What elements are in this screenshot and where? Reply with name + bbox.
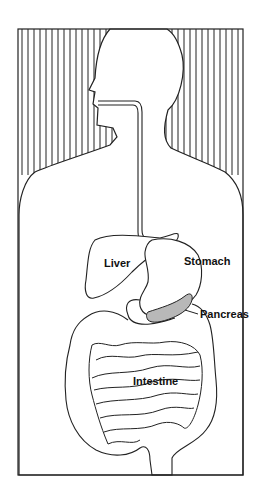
label-pancreas: Pancreas	[200, 308, 249, 320]
label-liver: Liver	[104, 257, 131, 269]
digestive-system-diagram: Liver Stomach Pancreas Intestine	[0, 0, 259, 503]
label-stomach: Stomach	[184, 255, 231, 267]
label-intestine: Intestine	[133, 375, 178, 387]
